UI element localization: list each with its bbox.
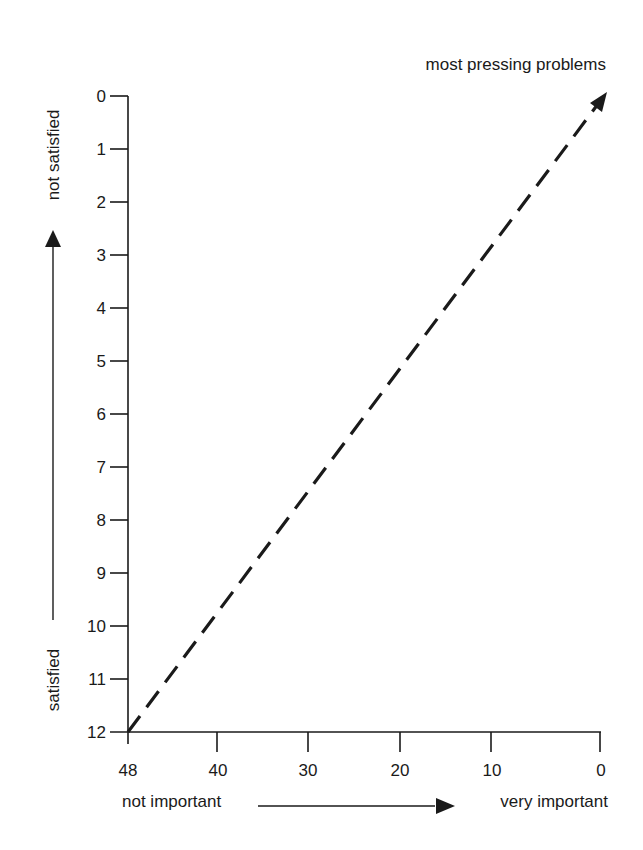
x-tick-label: 30 (299, 761, 318, 780)
y-tick-label: 7 (97, 458, 106, 477)
x-axis-ticks (217, 732, 600, 752)
dashed-diagonal-line (128, 104, 598, 732)
very-important-label: very important (500, 792, 608, 811)
y-tick-label: 1 (97, 140, 106, 159)
y-tick-label: 2 (97, 193, 106, 212)
y-tick-label: 12 (87, 723, 106, 742)
arrow-right-icon (436, 798, 455, 814)
satisfied-label: satisfied (44, 649, 63, 711)
y-tick-label: 6 (97, 405, 106, 424)
y-tick-label: 10 (87, 617, 106, 636)
x-tick-label: 0 (596, 761, 605, 780)
arrow-up-icon (45, 230, 61, 247)
most-pressing-problems-label: most pressing problems (426, 55, 606, 74)
x-tick-label: 10 (483, 761, 502, 780)
y-tick-label: 5 (97, 352, 106, 371)
y-tick-label: 8 (97, 511, 106, 530)
y-axis-ticks (110, 96, 128, 679)
importance-satisfaction-diagram: most pressing problems 0 1 2 3 4 5 6 7 8… (0, 0, 643, 850)
not-important-label: not important (122, 792, 221, 811)
x-tick-label: 40 (209, 761, 228, 780)
y-tick-label: 11 (88, 670, 106, 689)
x-axis-tick-labels: 48 40 30 20 10 0 (119, 761, 606, 780)
y-tick-label: 3 (97, 246, 106, 265)
not-satisfied-label: not satisfied (44, 110, 63, 201)
x-tick-label: 48 (119, 761, 138, 780)
y-tick-label: 4 (97, 299, 106, 318)
y-tick-label: 0 (97, 87, 106, 106)
y-axis-tick-labels: 0 1 2 3 4 5 6 7 8 9 10 11 12 (87, 87, 106, 742)
y-tick-label: 9 (97, 564, 106, 583)
x-tick-label: 20 (391, 761, 410, 780)
